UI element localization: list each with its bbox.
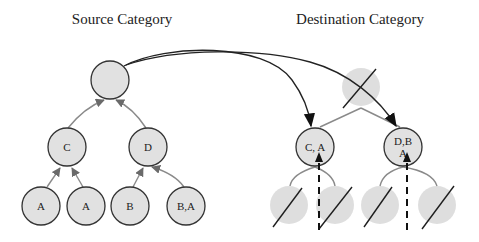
edge-arrow	[133, 168, 143, 187]
node-label: B	[126, 200, 133, 212]
edge-arrow	[47, 168, 60, 187]
destination-tree: C, A D,B A	[270, 68, 456, 230]
source-category-title: Source Category	[72, 11, 173, 27]
source-root-node	[91, 61, 129, 99]
node-label: C, A	[305, 141, 325, 153]
tree-edge	[380, 167, 403, 186]
edge-arrow	[116, 100, 146, 128]
mapping-arrow-to-ca	[124, 50, 311, 126]
edge-arrow	[152, 167, 184, 187]
node-label: C	[63, 141, 70, 153]
node-label: A	[37, 200, 45, 212]
destination-category-title: Destination Category	[296, 11, 424, 27]
node-label: D	[144, 141, 152, 153]
tree-edge	[290, 167, 315, 186]
edge-arrow	[68, 100, 104, 128]
node-label-line1: D,B	[394, 135, 412, 147]
node-label: A	[82, 200, 90, 212]
diagram: Source Category Destination Category C D…	[0, 0, 479, 242]
source-tree: C D A A B B,A	[22, 61, 205, 225]
edge-arrow	[72, 168, 83, 187]
node-label: B,A	[177, 200, 195, 212]
tree-edge	[403, 167, 437, 186]
tree-edge	[320, 108, 361, 127]
